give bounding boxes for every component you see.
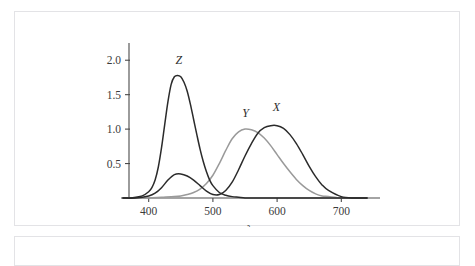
y-axis-tick-group: 0.51.01.52.0	[107, 54, 130, 169]
chart-plot-area: 0.51.01.52.0 400500600700 ZYX λ	[15, 12, 461, 227]
curve-group	[123, 75, 367, 198]
next-figure-panel	[14, 236, 460, 266]
figure-panel: 0.51.01.52.0 400500600700 ZYX λ	[14, 11, 460, 226]
curve-label-x: X	[272, 100, 281, 114]
curve-z	[123, 75, 367, 198]
x-axis-tick-group: 400500600700	[140, 198, 350, 217]
y-axis-tick-label: 2.0	[107, 54, 122, 66]
x-axis-label: λ	[245, 223, 252, 227]
x-axis-tick-label: 500	[204, 205, 222, 217]
x-axis-tick-label: 600	[268, 205, 286, 217]
curve-label-z: Z	[176, 53, 183, 67]
y-axis-tick-label: 0.5	[107, 158, 122, 170]
x-axis-tick-label: 400	[140, 205, 158, 217]
color-matching-function-chart: 0.51.01.52.0 400500600700 ZYX λ	[15, 12, 461, 227]
x-axis-tick-label: 700	[333, 205, 351, 217]
curve-label-y: Y	[242, 106, 250, 120]
y-axis-tick-label: 1.5	[107, 89, 122, 101]
y-axis-tick-label: 1.0	[107, 123, 122, 135]
